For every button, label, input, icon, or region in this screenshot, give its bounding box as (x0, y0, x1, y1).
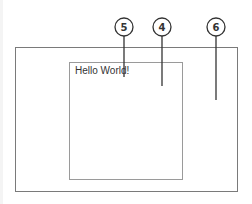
inner-panel[interactable] (69, 62, 183, 180)
callout-5-circle (115, 18, 133, 36)
hello-world-text: Hello World! (75, 65, 129, 77)
callout-5-number: 5 (121, 22, 128, 33)
callout-4-number: 4 (159, 22, 166, 33)
callout-4-circle (153, 18, 171, 36)
callout-6-number: 6 (213, 22, 220, 33)
page-edge-shadow (0, 0, 3, 204)
callout-6-circle (207, 18, 225, 36)
